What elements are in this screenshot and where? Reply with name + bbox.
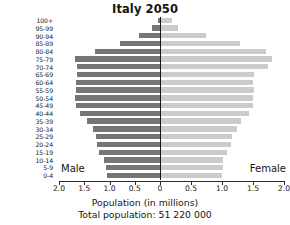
chart-title: Italy 2050	[0, 2, 290, 16]
male-bar	[120, 41, 160, 46]
male-bar	[106, 165, 160, 170]
age-group-label: 35-39	[36, 118, 53, 126]
x-axis-tick-label: 0.5	[129, 184, 141, 193]
female-bar	[161, 157, 223, 162]
x-axis-caption: Population (in millions)	[0, 197, 290, 208]
male-bar	[80, 111, 160, 116]
total-population-caption: Total population: 51 220 000	[0, 209, 290, 220]
male-legend-label: Male	[61, 163, 85, 174]
male-bar	[77, 72, 160, 77]
pyramid-row	[59, 33, 284, 41]
male-bar	[75, 56, 160, 61]
x-axis-tick-label: 0.5	[185, 184, 197, 193]
age-group-label: 45-49	[36, 102, 53, 110]
age-group-label: 0-4	[43, 172, 53, 180]
age-group-label: 25-29	[36, 133, 53, 141]
female-bar	[161, 111, 249, 116]
pyramid-row	[59, 17, 284, 25]
age-group-axis: 100+95-9990-9485-8980-8475-7970-7465-696…	[0, 17, 55, 180]
male-bar	[76, 103, 160, 108]
population-pyramid-chart: Italy 2050 100+95-9990-9485-8980-8475-79…	[0, 0, 290, 225]
age-group-label: 55-59	[36, 87, 53, 95]
male-bar	[99, 150, 160, 155]
female-bar	[161, 126, 237, 131]
female-bar	[161, 64, 268, 69]
female-bar	[161, 134, 232, 139]
female-bar	[161, 18, 172, 23]
female-bar	[161, 41, 240, 46]
age-group-label: 65-69	[36, 71, 53, 79]
male-bar	[139, 33, 160, 38]
female-bar	[161, 80, 253, 85]
female-bar	[161, 150, 227, 155]
x-axis-tick-label: 1.0	[216, 184, 228, 193]
male-bar	[76, 80, 160, 85]
pyramid-row	[59, 141, 284, 149]
male-bar	[75, 95, 160, 100]
pyramid-row	[59, 118, 284, 126]
pyramid-row	[59, 71, 284, 79]
pyramid-row	[59, 25, 284, 33]
pyramid-row	[59, 110, 284, 118]
x-axis-line	[59, 181, 285, 182]
male-bar	[152, 25, 160, 30]
age-group-label: 90-94	[36, 33, 53, 41]
age-group-label: 95-99	[36, 25, 53, 33]
pyramid-row	[59, 149, 284, 157]
x-axis-tick-label: 2.0	[278, 184, 290, 193]
female-bar	[161, 25, 178, 30]
pyramid-row	[59, 133, 284, 141]
female-bar	[161, 33, 206, 38]
x-axis-tick-label: 0	[158, 184, 163, 193]
female-bar	[161, 56, 272, 61]
age-group-label: 5-9	[43, 164, 53, 172]
plot-area	[59, 17, 284, 180]
pyramid-row	[59, 56, 284, 64]
pyramid-row	[59, 95, 284, 103]
male-bar	[104, 157, 160, 162]
pyramid-row	[59, 79, 284, 87]
age-group-label: 10-14	[36, 157, 53, 165]
male-bar	[97, 142, 160, 147]
male-bar	[107, 173, 160, 178]
female-bar	[161, 72, 254, 77]
age-group-label: 30-34	[36, 126, 53, 134]
male-bar	[87, 118, 160, 123]
zero-axis-line	[160, 17, 161, 180]
female-bar	[161, 173, 222, 178]
age-group-label: 70-74	[36, 64, 53, 72]
x-axis-tick-label: 1.5	[78, 184, 90, 193]
x-axis-tick-label: 2.0	[53, 184, 65, 193]
male-bar	[95, 49, 160, 54]
female-bar	[161, 95, 253, 100]
female-legend-label: Female	[250, 163, 286, 174]
pyramid-row	[59, 87, 284, 95]
pyramid-row	[59, 102, 284, 110]
pyramid-row	[59, 126, 284, 134]
female-bar	[161, 118, 241, 123]
age-group-label: 40-44	[36, 110, 53, 118]
x-axis-tick-label: 1.5	[247, 184, 259, 193]
age-group-label: 75-79	[36, 56, 53, 64]
pyramid-row	[59, 48, 284, 56]
male-bar	[76, 87, 160, 92]
age-group-label: 15-19	[36, 149, 53, 157]
male-bar	[93, 126, 160, 131]
male-bar	[77, 64, 160, 69]
female-bar	[161, 87, 254, 92]
female-bar	[161, 165, 223, 170]
male-bar	[96, 134, 160, 139]
age-group-label: 50-54	[36, 95, 53, 103]
pyramid-row	[59, 40, 284, 48]
age-group-label: 80-84	[36, 48, 53, 56]
x-axis-tick-label: 1.0	[103, 184, 115, 193]
age-group-label: 20-24	[36, 141, 53, 149]
age-group-label: 100+	[36, 17, 53, 25]
female-bar	[161, 142, 231, 147]
pyramid-row	[59, 64, 284, 72]
age-group-label: 60-64	[36, 79, 53, 87]
age-group-label: 85-89	[36, 40, 53, 48]
female-bar	[161, 49, 266, 54]
female-bar	[161, 103, 253, 108]
